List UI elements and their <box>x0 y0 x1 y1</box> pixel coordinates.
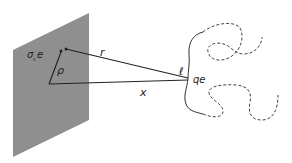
string-dashed-lower <box>203 85 278 120</box>
sigma-subscript: s <box>33 56 36 62</box>
ell-label: ℓ <box>178 65 184 78</box>
r-label: r <box>100 46 106 59</box>
diagram-canvas: σ s e ρ r x ℓ qe <box>0 0 292 163</box>
x-label: x <box>139 86 147 99</box>
rho-tip-dot <box>60 50 63 53</box>
qe-label: qe <box>193 74 206 85</box>
string-dashed-upper <box>203 23 262 60</box>
sigma-e-label: e <box>37 49 43 60</box>
rho-label: ρ <box>57 64 64 77</box>
string-solid <box>185 32 203 114</box>
charged-plane <box>13 13 89 157</box>
